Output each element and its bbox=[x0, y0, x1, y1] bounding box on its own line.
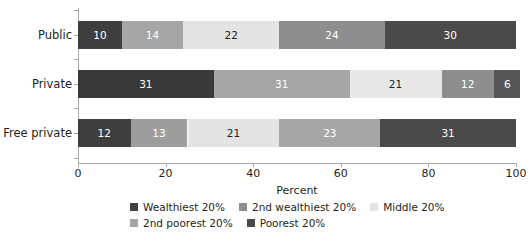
bar-segment-value: 10 bbox=[93, 30, 106, 41]
x-axis-tick-label: 80 bbox=[421, 167, 435, 180]
bar-row: 1014222430 bbox=[78, 21, 516, 49]
legend-item[interactable]: Wealthiest 20% bbox=[130, 201, 225, 213]
bar-segment-value: 30 bbox=[444, 30, 457, 41]
x-axis-line bbox=[78, 163, 517, 164]
bar-segment-value: 13 bbox=[152, 128, 165, 139]
x-axis-tick-label: 0 bbox=[75, 167, 82, 180]
bar-segment: 14 bbox=[122, 21, 183, 49]
legend-swatch-icon bbox=[130, 219, 138, 227]
bar-segment: 31 bbox=[78, 70, 214, 98]
x-axis-tick-label: 100 bbox=[506, 167, 527, 180]
y-axis-minor-tick bbox=[74, 158, 78, 159]
bar-segment-value: 31 bbox=[275, 79, 288, 90]
bar-segment-value: 12 bbox=[461, 79, 474, 90]
legend-label: 2nd poorest 20% bbox=[143, 217, 233, 229]
x-axis-tick-label: 20 bbox=[159, 167, 173, 180]
bar-segment: 30 bbox=[385, 21, 516, 49]
legend-item[interactable]: Middle 20% bbox=[370, 201, 444, 213]
bar-segment-value: 14 bbox=[146, 30, 159, 41]
bar-segment-value: 6 bbox=[504, 79, 511, 90]
stacked-bar-chart: PublicPrivateFree private 10142224303131… bbox=[0, 0, 532, 241]
y-axis-category-labels: PublicPrivateFree private bbox=[0, 8, 72, 163]
bar-row: 1213212331 bbox=[78, 119, 516, 147]
legend-label: Poorest 20% bbox=[260, 217, 326, 229]
legend-swatch-icon bbox=[239, 203, 247, 211]
bar-segment: 31 bbox=[214, 70, 350, 98]
bar-segment: 24 bbox=[279, 21, 384, 49]
x-axis-tick-label: 60 bbox=[334, 167, 348, 180]
x-axis-title: Percent bbox=[78, 184, 516, 197]
bar-segment: 22 bbox=[183, 21, 279, 49]
clipped-chart-title bbox=[0, 0, 532, 7]
bar-segment: 21 bbox=[350, 70, 442, 98]
legend-label: Wealthiest 20% bbox=[143, 201, 225, 213]
y-axis-minor-tick bbox=[74, 59, 78, 60]
bar-segment-value: 24 bbox=[325, 30, 338, 41]
bar-segment: 31 bbox=[380, 119, 516, 147]
legend-row-1: Wealthiest 20%2nd wealthiest 20%Middle 2… bbox=[130, 201, 530, 217]
legend-item[interactable]: Poorest 20% bbox=[247, 217, 326, 229]
y-axis-category-label: Private bbox=[0, 78, 72, 90]
bar-segment-value: 22 bbox=[225, 30, 238, 41]
bar-segment-value: 31 bbox=[441, 128, 454, 139]
bar-segment: 10 bbox=[78, 21, 122, 49]
bar-segment-value: 21 bbox=[227, 128, 240, 139]
y-axis-minor-tick bbox=[74, 10, 78, 11]
bar-segment-value: 21 bbox=[389, 79, 402, 90]
legend-swatch-icon bbox=[370, 203, 378, 211]
legend-label: Middle 20% bbox=[383, 201, 444, 213]
y-axis-minor-tick bbox=[74, 108, 78, 109]
legend-swatch-icon bbox=[247, 219, 255, 227]
legend-label: 2nd wealthiest 20% bbox=[252, 201, 356, 213]
plot-area: 10142224303131211261213212331 bbox=[78, 8, 516, 163]
bar-segment: 12 bbox=[442, 70, 495, 98]
bar-row: 313121126 bbox=[78, 70, 516, 98]
bar-segment: 23 bbox=[279, 119, 380, 147]
legend-swatch-icon bbox=[130, 203, 138, 211]
y-axis-tick bbox=[74, 133, 78, 134]
x-axis-tick-label: 40 bbox=[246, 167, 260, 180]
bar-segment: 21 bbox=[188, 119, 280, 147]
bar-segment-value: 31 bbox=[139, 79, 152, 90]
legend-row-2: 2nd poorest 20%Poorest 20% bbox=[130, 217, 530, 233]
y-axis-tick bbox=[74, 35, 78, 36]
bar-segment: 6 bbox=[494, 70, 520, 98]
bar-segment: 12 bbox=[78, 119, 131, 147]
legend-item[interactable]: 2nd wealthiest 20% bbox=[239, 201, 356, 213]
chart-legend: Wealthiest 20%2nd wealthiest 20%Middle 2… bbox=[130, 201, 530, 233]
y-axis-tick bbox=[74, 84, 78, 85]
bar-segment-value: 12 bbox=[98, 128, 111, 139]
bar-segment: 13 bbox=[131, 119, 188, 147]
bar-segment-value: 23 bbox=[323, 128, 336, 139]
y-axis-category-label: Public bbox=[0, 29, 72, 41]
y-axis-category-label: Free private bbox=[0, 127, 72, 139]
legend-item[interactable]: 2nd poorest 20% bbox=[130, 217, 233, 229]
